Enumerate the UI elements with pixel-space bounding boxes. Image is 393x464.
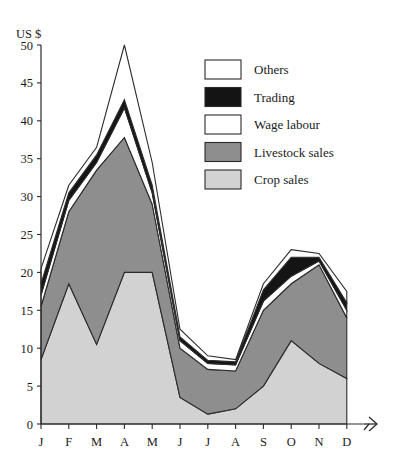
x-tick-label-1: F	[65, 435, 72, 449]
x-axis: JFMAMJJASOND	[39, 424, 364, 449]
y-tick-label: 10	[21, 342, 34, 356]
x-tick-label-10: N	[314, 435, 323, 449]
x-tick-label-2: M	[91, 435, 102, 449]
y-tick-label: 35	[21, 152, 34, 166]
y-tick-label: 20	[21, 266, 34, 280]
plot-areas	[41, 45, 347, 424]
legend-label-crop-sales: Crop sales	[254, 172, 309, 187]
y-tick-label: 0	[27, 418, 33, 432]
x-tick-label-3: A	[120, 435, 129, 449]
x-tick-label-8: S	[260, 435, 267, 449]
legend-label-livestock-sales: Livestock sales	[254, 145, 334, 160]
x-tick-label-6: J	[205, 435, 210, 449]
legend-swatch-wage-labour	[205, 115, 241, 134]
legend-swatch-crop-sales	[205, 170, 241, 189]
y-axis-title: US $	[16, 27, 41, 41]
legend: OthersTradingWage labourLivestock salesC…	[205, 60, 334, 189]
x-tick-label-9: O	[287, 435, 296, 449]
chart-container: 05101520253035404550 JFMAMJJASOND US $ O…	[0, 0, 393, 464]
legend-label-trading: Trading	[254, 90, 295, 105]
x-tick-label-4: M	[147, 435, 158, 449]
axis-title-group: US $	[16, 27, 41, 41]
y-tick-label: 30	[21, 190, 34, 204]
legend-swatch-trading	[205, 88, 241, 107]
legend-swatch-livestock-sales	[205, 143, 241, 162]
x-tick-label-0: J	[39, 435, 44, 449]
stacked-area-chart: 05101520253035404550 JFMAMJJASOND US $ O…	[0, 0, 393, 464]
x-tick-label-7: A	[231, 435, 240, 449]
y-tick-label: 5	[27, 380, 33, 394]
y-axis: 05101520253035404550	[21, 39, 42, 432]
y-tick-label: 40	[21, 114, 34, 128]
x-tick-label-11: D	[342, 435, 351, 449]
y-tick-label: 45	[21, 76, 34, 90]
x-tick-label-5: J	[178, 435, 183, 449]
y-tick-label: 15	[21, 304, 34, 318]
x-axis-arrow-icon	[364, 417, 377, 431]
y-tick-label: 25	[21, 228, 34, 242]
legend-label-wage-labour: Wage labour	[254, 117, 320, 132]
legend-swatch-others	[205, 60, 241, 79]
legend-label-others: Others	[254, 62, 289, 77]
